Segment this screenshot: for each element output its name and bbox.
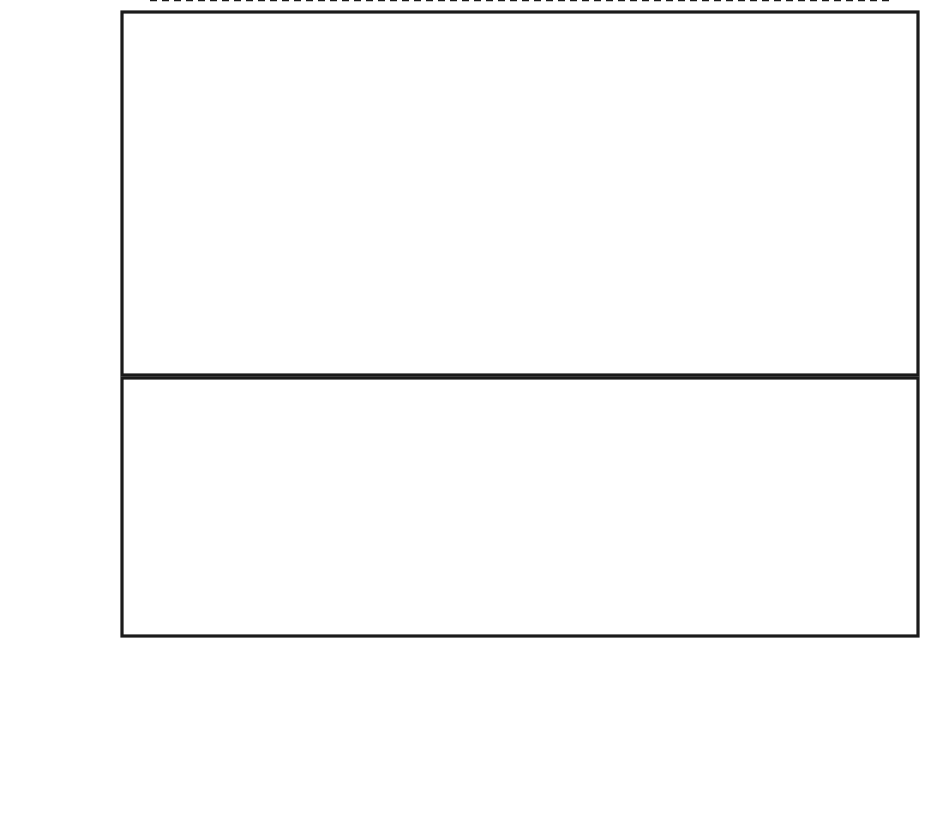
x-axis-category-labels bbox=[0, 0, 936, 824]
chart-figure bbox=[0, 0, 936, 824]
